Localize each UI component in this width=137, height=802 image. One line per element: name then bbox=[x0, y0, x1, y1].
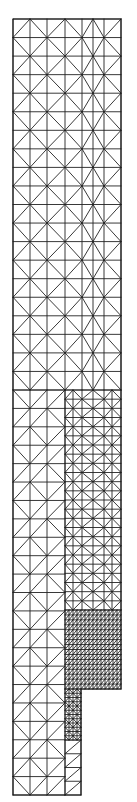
mesh-edges bbox=[13, 19, 121, 795]
mesh-canvas bbox=[0, 0, 137, 802]
mesh-diagram bbox=[0, 0, 137, 802]
